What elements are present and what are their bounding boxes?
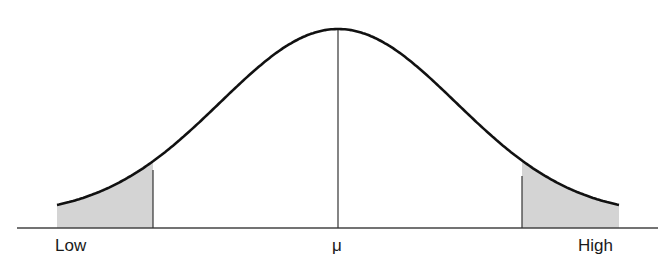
high-label: High xyxy=(578,236,613,256)
bell-curve-diagram xyxy=(0,0,668,275)
low-label: Low xyxy=(55,236,86,256)
mean-label: μ xyxy=(332,236,342,256)
